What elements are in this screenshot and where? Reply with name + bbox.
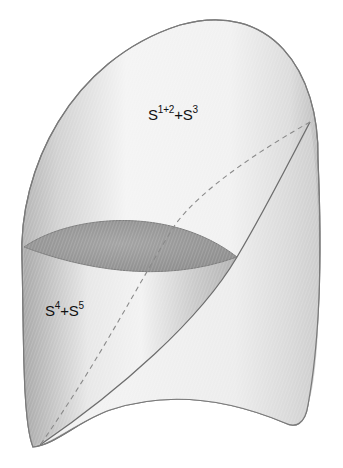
lower-label-plus: + (60, 302, 69, 319)
upper-label-base1: S (148, 106, 158, 123)
lower-region-label: S4+S5 (45, 302, 84, 319)
lower-label-sup2: 5 (79, 300, 84, 311)
lower-label-base1: S (45, 302, 55, 319)
upper-region-label: S1+2+S3 (148, 106, 198, 123)
lung-surface-illustration (0, 0, 343, 468)
upper-label-sup1: 1+2 (158, 104, 174, 115)
upper-label-plus: + (174, 106, 183, 123)
upper-label-base2: S (183, 106, 193, 123)
lower-label-sup1: 4 (55, 300, 60, 311)
lower-label-base2: S (69, 302, 79, 319)
upper-label-sup2: 3 (193, 104, 198, 115)
lung-segment-diagram: S1+2+S3 S4+S5 (0, 0, 343, 468)
surface-texture (22, 20, 320, 447)
